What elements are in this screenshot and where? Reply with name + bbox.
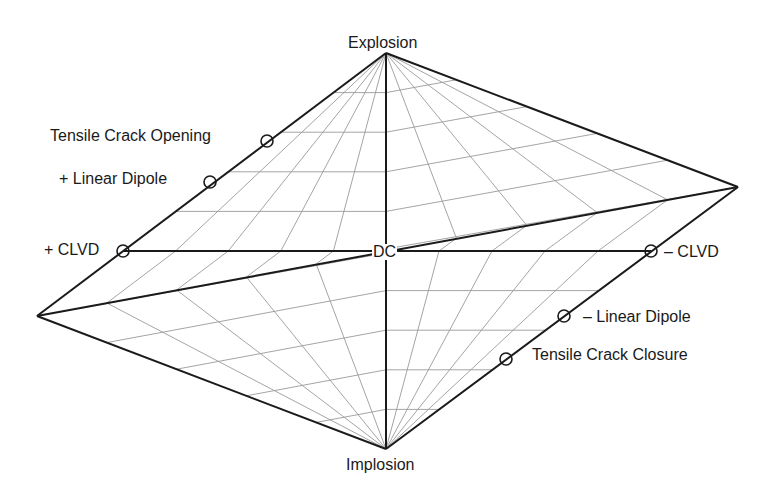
grid-level-lower-left: [246, 370, 386, 396]
edge-bottom-left: [37, 316, 386, 449]
grid-radial-upper-right: [386, 53, 527, 251]
grid-radial-lower-right: [386, 251, 439, 449]
label-implosion: Implosion: [346, 457, 414, 473]
grid-level-upper-right: [386, 107, 527, 133]
label-minus-clvd: – CLVD: [664, 244, 719, 260]
grid-radial-lower-right: [386, 251, 492, 449]
label-tensile-crack-closure: Tensile Crack Closure: [532, 347, 688, 363]
label-tensile-crack-opening: Tensile Crack Opening: [50, 128, 211, 144]
grid-radial-lower-left: [177, 290, 386, 449]
label-plus-clvd: + CLVD: [44, 242, 99, 258]
grid-radial-upper-right: [386, 53, 456, 251]
grid-radial-upper-right: [386, 53, 668, 251]
grid-radial-lower-left: [316, 264, 386, 449]
grid-level-lower-left: [107, 291, 386, 343]
grid-level-lower-left: [177, 330, 386, 369]
grid-radial-lower-left: [107, 303, 386, 449]
source-type-diagram: Explosion Implosion DC + CLVD – CLVD + L…: [0, 0, 773, 500]
grid-radial-upper-right: [386, 53, 597, 251]
label-dc: DC: [372, 244, 397, 260]
grid-level-upper-right: [386, 160, 668, 211]
label-explosion: Explosion: [348, 35, 417, 51]
marker-tensile-crack-opening: [261, 135, 273, 147]
label-plus-linear-dipole: + Linear Dipole: [59, 171, 167, 187]
label-minus-linear-dipole: – Linear Dipole: [583, 309, 691, 325]
edge-top-right: [386, 53, 738, 187]
grid-radial-lower-right: [386, 251, 545, 449]
grid-radial-upper-left: [316, 53, 386, 264]
grid-level-upper-right: [386, 133, 597, 171]
